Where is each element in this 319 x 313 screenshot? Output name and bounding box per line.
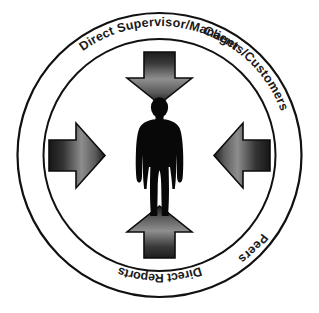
label-direct-reports: Direct Reports xyxy=(116,264,204,285)
employee-silhouette xyxy=(136,97,184,216)
arrow-top xyxy=(127,52,192,104)
arrow-bottom xyxy=(127,206,192,258)
feedback-diagram: Direct Supervisor/Manager Direct Reports… xyxy=(0,0,319,313)
label-clients-customers: Clients/Customers xyxy=(202,23,291,112)
arrow-right xyxy=(214,123,270,188)
feedback-diagram-canvas: Direct Supervisor/Manager Direct Reports… xyxy=(0,0,319,313)
arrow-left xyxy=(49,123,105,188)
